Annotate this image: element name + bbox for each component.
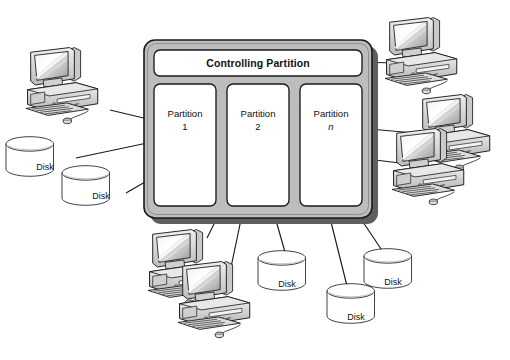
disk-bottom-right-lower-label: Disk (347, 312, 365, 322)
connector-left-upper-disk (76, 142, 152, 158)
disk-bottom-center-label: Disk (278, 279, 296, 289)
workstation-icon (178, 262, 250, 338)
partition-n-panel[interactable]: Partition n (300, 84, 362, 206)
disk-bottom-right-upper-label: Disk (384, 277, 402, 287)
partition-2-panel[interactable]: Partition 2 (227, 84, 289, 206)
partition-1-name: Partition (168, 108, 203, 119)
controlling-partition-label: Controlling Partition (206, 57, 310, 69)
computer-bottom-left-front[interactable] (178, 262, 250, 338)
disk-left-upper-label: Disk (36, 162, 54, 172)
workstation-icon (26, 48, 98, 124)
controlling-partition-panel[interactable]: Controlling Partition (154, 50, 362, 76)
partition-2-index: 2 (255, 121, 260, 132)
partition-1-panel[interactable]: Partition 1 (154, 84, 216, 206)
partition-2-name: Partition (241, 108, 276, 119)
partition-n-name: Partition (314, 108, 349, 119)
computer-top-left[interactable] (26, 48, 98, 124)
computer-top-right[interactable] (385, 18, 457, 94)
partition-1-index: 1 (182, 121, 187, 132)
disk-left-lower-label: Disk (92, 191, 110, 201)
partition-n-index: n (328, 121, 333, 132)
workstation-icon (385, 18, 457, 94)
diagram-canvas: Controlling Partition Partition 1 Partit… (0, 0, 510, 360)
